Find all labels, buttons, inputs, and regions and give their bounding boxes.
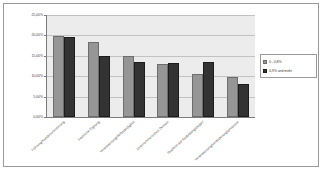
bar-group xyxy=(186,15,221,117)
x-axis-tick-label: Unternehmerisches Denken xyxy=(136,120,170,151)
x-axis-category-labels: Führung/KundenorientierungFachliche Eign… xyxy=(46,118,254,168)
bar xyxy=(123,56,134,117)
y-axis-tick-label: 0,00% xyxy=(33,115,43,119)
bar xyxy=(64,37,75,117)
y-axis-tick-label: 20,00% xyxy=(31,33,43,37)
legend-swatch xyxy=(263,60,267,64)
bar xyxy=(53,36,64,117)
legend-label: 0 - 0,8% xyxy=(269,60,282,64)
x-axis-tick-label: Führung/Kundenorientierung xyxy=(31,120,66,152)
legend-item[interactable]: 0 - 0,8% xyxy=(263,57,314,66)
x-axis-tick-label: Reaktion auf Ausbildungsbedarf xyxy=(166,120,204,155)
x-axis-tick-label: Fachliche Eignung xyxy=(77,120,100,142)
bar-group xyxy=(220,15,255,117)
bar xyxy=(99,56,110,117)
y-axis-tick-label: 5,00% xyxy=(33,95,43,99)
legend-label: 0,9% und mehr xyxy=(269,69,292,73)
bar xyxy=(238,84,249,117)
bar-group xyxy=(116,15,151,117)
bar xyxy=(88,42,99,117)
chart-legend: 0 - 0,8%0,9% und mehr xyxy=(260,54,317,78)
bar-group xyxy=(151,15,186,117)
bar xyxy=(134,62,145,117)
bar xyxy=(227,77,238,117)
legend-swatch xyxy=(263,69,267,73)
y-axis-tick-label: 10,00% xyxy=(31,74,43,78)
legend-item[interactable]: 0,9% und mehr xyxy=(263,66,314,75)
bar xyxy=(157,64,168,117)
plot-area xyxy=(46,15,255,118)
bar xyxy=(192,74,203,117)
chart-frame: 25,00%20,00%15,00%10,00%5,00%0,00% Führu… xyxy=(3,3,319,167)
bar-group xyxy=(82,15,117,117)
x-axis-tick-label: Verantwortung/Selbständigkeit xyxy=(99,120,136,154)
y-axis-tick-label: 15,00% xyxy=(31,54,43,58)
bar-group xyxy=(47,15,82,117)
bar xyxy=(203,62,214,117)
bar xyxy=(168,63,179,117)
bar-groups xyxy=(47,15,255,117)
y-axis-tick-label: 25,00% xyxy=(31,13,43,17)
y-axis: 25,00%20,00%15,00%10,00%5,00%0,00% xyxy=(4,15,43,118)
